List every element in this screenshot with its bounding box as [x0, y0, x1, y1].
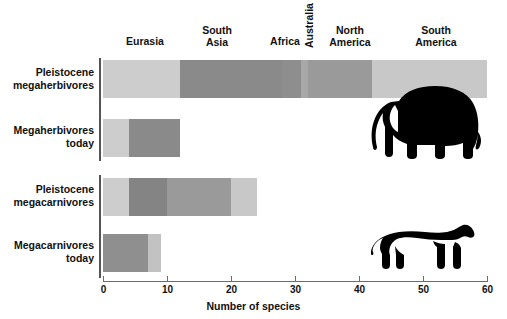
x-axis-tick: [487, 276, 488, 281]
x-axis-tick: [295, 276, 296, 281]
x-axis-tick: [423, 276, 424, 281]
bar-segment-north-america: [308, 60, 372, 98]
bar-segment-africa: [167, 178, 231, 216]
x-axis-tick: [103, 276, 104, 281]
bar-segment-eurasia: [103, 178, 129, 216]
x-axis-tick-label: 40: [345, 284, 375, 295]
group-spine-megaherbivores: [99, 58, 101, 161]
bar-segment-eurasia: [103, 60, 180, 98]
region-header-south-america: South America: [398, 25, 474, 48]
x-axis-tick-label: 10: [153, 284, 183, 295]
region-header-north-america: North America: [320, 25, 380, 48]
bar-megacarnivores-today: [103, 234, 161, 272]
species-bar-chart: Eurasia South Asia Africa Australia Nort…: [0, 0, 507, 319]
bar-pleistocene-megacarnivores: [103, 178, 257, 216]
bar-segment-south-america: [231, 178, 257, 216]
big-cat-silhouette-icon: [371, 217, 477, 273]
bar-megaherbivores-today: [103, 119, 180, 157]
x-axis-tick: [359, 276, 360, 281]
bar-segment-south-asia: [129, 119, 180, 157]
bar-segment-south-asia: [148, 234, 161, 272]
region-header-australia: Australia: [304, 2, 315, 48]
x-axis-tick-label: 20: [217, 284, 247, 295]
x-axis-tick-label: 50: [409, 284, 439, 295]
elephant-silhouette-icon: [365, 83, 483, 161]
x-axis-tick-label: 60: [473, 284, 503, 295]
bar-segment-africa: [282, 60, 301, 98]
x-axis-tick-label: 0: [89, 284, 119, 295]
bar-segment-eurasia: [103, 119, 129, 157]
bar-segment-south-asia: [180, 60, 282, 98]
x-axis-line: [103, 281, 488, 282]
x-axis-tick-label: 30: [281, 284, 311, 295]
row-label-megaherbivores-today: Megaherbivores today: [2, 124, 94, 149]
bar-segment-eurasia: [103, 234, 148, 272]
x-axis-tick: [231, 276, 232, 281]
region-header-eurasia: Eurasia: [110, 36, 180, 48]
x-axis-tick: [167, 276, 168, 281]
row-label-megacarnivores-today: Megacarnivores today: [2, 239, 94, 264]
x-axis-title: Number of species: [0, 300, 507, 312]
region-header-south-asia: South Asia: [182, 25, 252, 48]
row-label-pleistocene-megaherbivores: Pleistocene megaherbivores: [2, 66, 94, 91]
group-spine-megacarnivores: [99, 175, 101, 278]
row-label-pleistocene-megacarnivores: Pleistocene megacarnivores: [2, 183, 94, 208]
bar-segment-south-asia: [129, 178, 167, 216]
